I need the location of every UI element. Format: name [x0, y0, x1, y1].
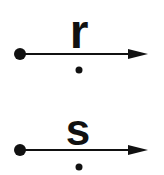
arrowhead-icon [128, 145, 148, 155]
arrowhead-icon [128, 49, 148, 59]
vector-label-r: r [70, 5, 89, 58]
vector-label-s: s [66, 105, 90, 154]
vector-diagram: r s [0, 0, 164, 175]
below-dot-icon [76, 67, 83, 74]
vector-s-group: s [14, 105, 148, 171]
vector-r-group: r [14, 5, 148, 74]
below-dot-icon [76, 164, 83, 171]
